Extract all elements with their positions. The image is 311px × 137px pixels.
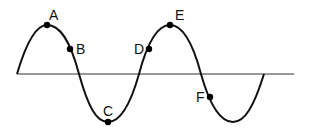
- point-b-marker: [67, 46, 73, 52]
- point-e-marker: [167, 22, 173, 28]
- wave-diagram: ABCDEF: [0, 0, 311, 137]
- point-b-label: B: [76, 41, 85, 57]
- point-c-label: C: [103, 103, 113, 119]
- point-f-marker: [207, 94, 213, 100]
- point-d-label: D: [134, 41, 144, 57]
- point-d-marker: [146, 46, 152, 52]
- point-a-label: A: [49, 7, 59, 23]
- point-c-marker: [105, 119, 111, 125]
- point-e-label: E: [175, 7, 184, 23]
- point-f-label: F: [196, 89, 205, 105]
